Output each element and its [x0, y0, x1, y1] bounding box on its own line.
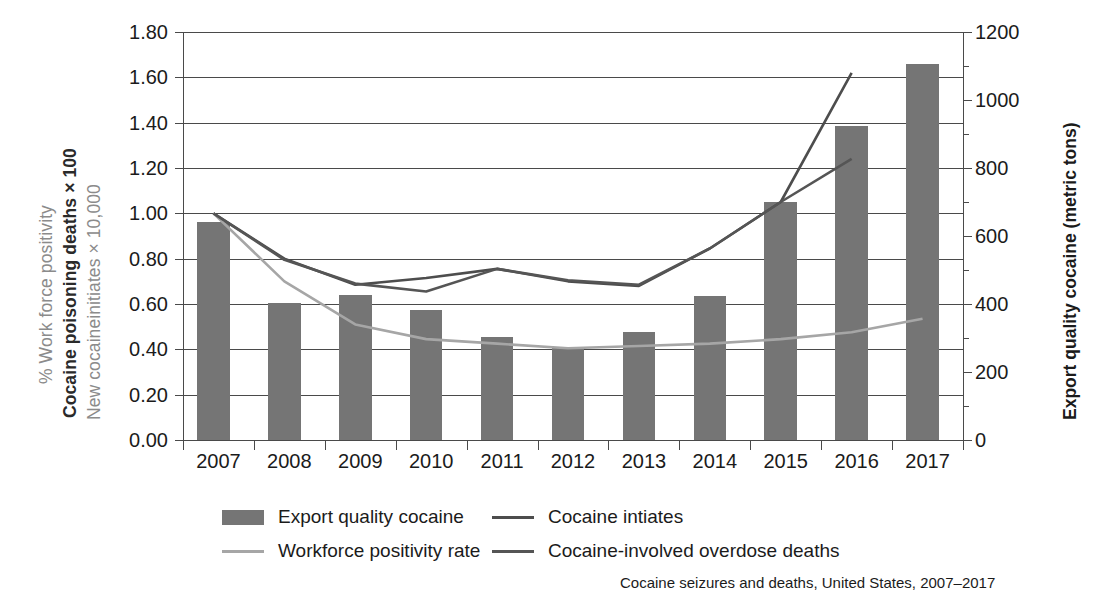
- left-axis-tick-label: 0.60: [106, 294, 168, 314]
- x-axis-tick-label: 2014: [679, 450, 750, 473]
- legend-line-swatch-icon: [222, 550, 264, 553]
- x-axis-tick-label: 2008: [254, 450, 325, 473]
- left-axis-tick-label: 0.40: [106, 339, 168, 359]
- left-axis-title-1: % Work force positivity: [36, 205, 57, 384]
- left-axis-tick: [175, 304, 183, 305]
- x-axis-tick: [183, 441, 184, 450]
- x-axis-tick: [821, 441, 822, 450]
- right-axis-minor-tick: [964, 338, 969, 339]
- line-series: [183, 32, 963, 440]
- gridline: [183, 440, 963, 441]
- legend-label: Workforce positivity rate: [278, 540, 480, 562]
- left-axis-tick-label: 1.00: [106, 203, 168, 223]
- legend-bar-swatch-icon: [222, 510, 264, 525]
- left-axis-tick-labels: 1.801.601.401.201.000.800.600.400.200.00: [106, 0, 168, 460]
- x-axis-tick: [467, 441, 468, 450]
- x-axis-tick: [750, 441, 751, 450]
- x-axis-tick: [325, 441, 326, 450]
- right-axis-tick-label: 1200: [975, 22, 1020, 42]
- figure-caption-text: Cocaine seizures and deaths, United Stat…: [620, 576, 995, 590]
- left-axis-tick: [175, 349, 183, 350]
- left-axis-tick: [175, 32, 183, 33]
- x-axis-tick: [963, 441, 964, 450]
- x-axis-tick-label: 2010: [396, 450, 467, 473]
- x-axis-tick: [538, 441, 539, 450]
- legend-label: Cocaine-involved overdose deaths: [548, 540, 840, 562]
- x-axis-tick-label: 2015: [750, 450, 821, 473]
- legend-label: Export quality cocaine: [278, 506, 464, 528]
- line-cocaine-intiates: [213, 73, 851, 286]
- right-axis-minor-tick: [964, 406, 969, 407]
- left-axis-tick-label: 1.80: [106, 22, 168, 42]
- right-axis-title: Export quality cocaine (metric tons): [1060, 122, 1081, 420]
- legend-row-1: Export quality cocaine Cocaine intiates: [222, 500, 922, 534]
- legend-label: Cocaine intiates: [548, 506, 683, 528]
- right-axis-tick-label: 0: [975, 430, 986, 450]
- left-axis-tick: [175, 395, 183, 396]
- x-axis-tick: [679, 441, 680, 450]
- x-axis-tick-label: 2007: [183, 450, 254, 473]
- right-axis-tick: [964, 372, 972, 373]
- x-axis-tick-label: 2011: [467, 450, 538, 473]
- right-axis-minor-tick: [964, 270, 969, 271]
- right-axis-tick-label: 600: [975, 226, 1008, 246]
- right-axis-tick: [964, 236, 972, 237]
- right-axis-tick-label: 200: [975, 362, 1008, 382]
- right-axis-tick: [964, 440, 972, 441]
- left-axis-tick-label: 1.20: [106, 158, 168, 178]
- left-axis-tick: [175, 168, 183, 169]
- figure-caption-clipped: Cocaine seizures and deaths, United Stat…: [0, 576, 1107, 590]
- left-axis-tick-label: 0.00: [106, 430, 168, 450]
- right-axis-tick-label: 1000: [975, 90, 1020, 110]
- left-axis-tick-label: 1.60: [106, 67, 168, 87]
- right-axis-tick: [964, 168, 972, 169]
- line-cocaine-involved-overdose-deaths: [213, 159, 851, 292]
- left-axis-tick-label: 0.80: [106, 249, 168, 269]
- left-axis-tick-label: 1.40: [106, 113, 168, 133]
- x-axis-tick-label: 2012: [538, 450, 609, 473]
- legend-line-swatch-icon: [492, 516, 534, 519]
- legend-item-workforce-positivity-rate[interactable]: Workforce positivity rate: [222, 540, 492, 562]
- left-axis-tick-label: 0.20: [106, 385, 168, 405]
- left-axis-tick: [175, 213, 183, 214]
- left-axis-tick: [175, 77, 183, 78]
- left-axis-tick: [175, 259, 183, 260]
- x-axis-tick-label: 2017: [892, 450, 963, 473]
- left-axis-tick: [175, 123, 183, 124]
- legend-item-export-quality-cocaine[interactable]: Export quality cocaine: [222, 506, 492, 528]
- right-axis-tick-label: 800: [975, 158, 1008, 178]
- legend-line-swatch-icon: [492, 550, 534, 553]
- right-axis-tick: [964, 304, 972, 305]
- x-axis-tick-label: 2016: [821, 450, 892, 473]
- x-axis-tick: [608, 441, 609, 450]
- right-axis-tick-label: 400: [975, 294, 1008, 314]
- chart-figure: % Work force positivity Cocaine poisonin…: [0, 0, 1107, 590]
- right-axis-tick: [964, 32, 972, 33]
- x-axis-tick-label: 2013: [608, 450, 679, 473]
- left-axis-title-3: New cocaineinitiates × 10,000: [84, 184, 105, 420]
- left-axis-tick: [175, 440, 183, 441]
- left-axis-title-2: Cocaine poisoning deaths × 100: [60, 148, 81, 418]
- right-axis-minor-tick: [964, 202, 969, 203]
- x-axis-tick: [396, 441, 397, 450]
- legend-row-2: Workforce positivity rate Cocaine-involv…: [222, 534, 922, 568]
- right-axis-tick: [964, 100, 972, 101]
- legend-item-cocaine-involved-overdose-deaths[interactable]: Cocaine-involved overdose deaths: [492, 540, 840, 562]
- x-axis-tick: [254, 441, 255, 450]
- right-axis-minor-tick: [964, 134, 969, 135]
- right-axis-minor-tick: [964, 66, 969, 67]
- x-axis-tick: [892, 441, 893, 450]
- legend-item-cocaine-intiates[interactable]: Cocaine intiates: [492, 506, 683, 528]
- legend: Export quality cocaine Cocaine intiates …: [222, 500, 922, 568]
- x-axis-tick-label: 2009: [325, 450, 396, 473]
